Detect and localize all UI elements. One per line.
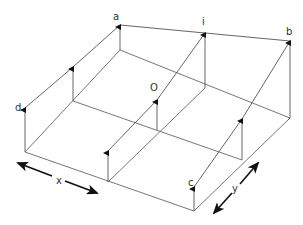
label-b: b [286,26,292,37]
x-arrow-left [18,163,52,176]
top-surface [25,25,290,187]
x-axis-indicator: x [18,163,97,193]
label-i: i [202,16,205,27]
y-arrow-up [240,163,258,184]
height-arrows [25,27,290,211]
label-d: d [15,102,21,113]
label-c: c [188,177,194,188]
top-edge-left [25,25,120,108]
label-a: a [113,11,119,22]
x-axis-label: x [56,175,62,186]
label-O: O [150,82,158,93]
y-arrow-down [214,193,232,213]
base-col-mid [108,88,205,182]
surface-diagram: a i b d O c x y [0,0,303,225]
base-col-left [25,50,120,152]
x-arrow-right [65,181,97,193]
base-row-front [25,152,194,211]
y-axis-label: y [232,183,238,194]
base-row-mid [73,101,242,160]
